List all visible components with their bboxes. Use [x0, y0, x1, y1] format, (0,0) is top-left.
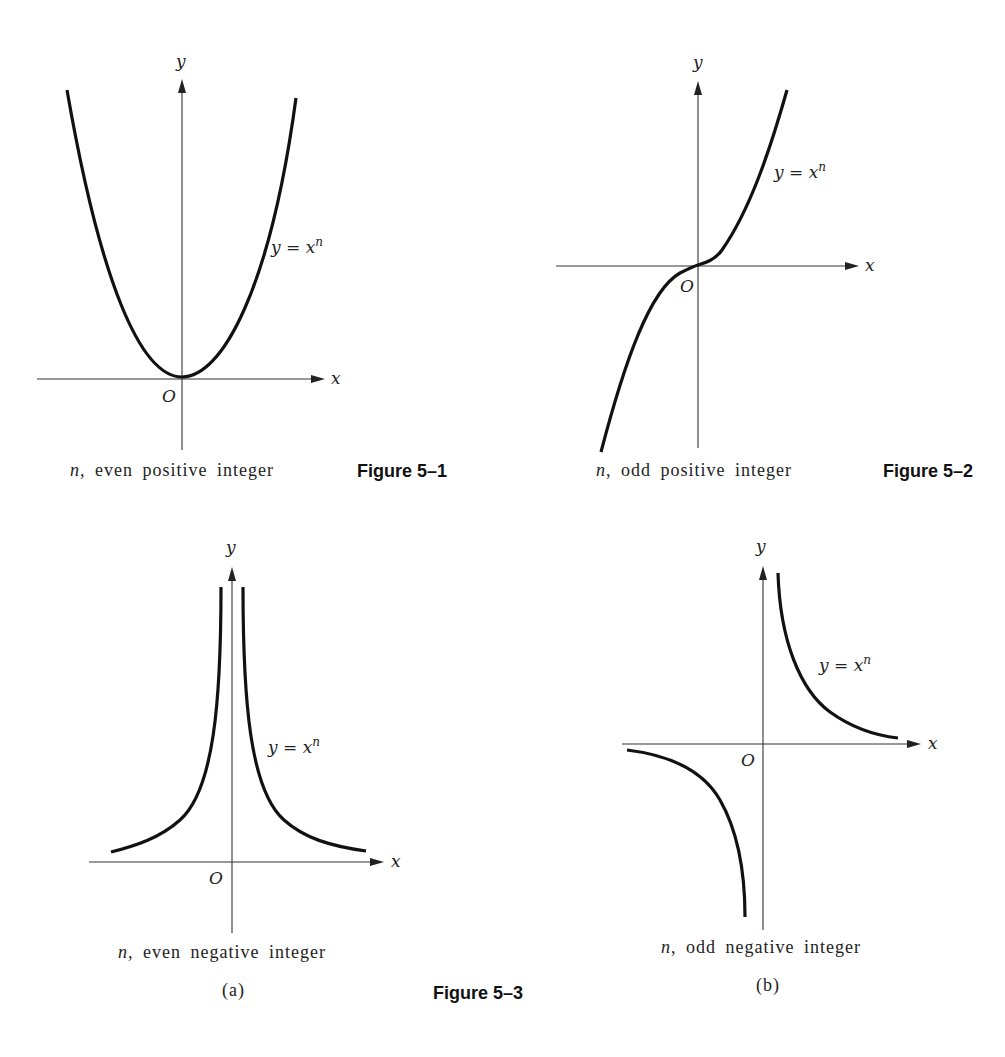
origin-label: O — [162, 386, 176, 406]
curve-label: y = xn — [818, 653, 871, 675]
curve-odd-positive — [601, 90, 787, 452]
x-axis-label: x — [865, 255, 875, 275]
curve-even-negative-left — [111, 587, 221, 852]
x-axis-label: x — [928, 733, 938, 753]
figure-caption: n, odd positive integer — [596, 460, 792, 480]
y-axis-arrow-icon — [694, 81, 702, 95]
curve-label: y = xn — [270, 235, 323, 257]
x-axis-label: x — [391, 851, 401, 871]
y-axis-label: y — [225, 537, 236, 557]
curve-odd-negative-lower — [627, 750, 745, 917]
y-axis-arrow-icon — [228, 567, 236, 581]
figure-5-2: x y O y = xn n, odd positive integer Fig… — [556, 52, 973, 481]
origin-label: O — [741, 750, 755, 770]
figure-5-3b: x y O y = xn n, odd negative integer (b) — [622, 536, 938, 996]
x-axis-arrow-icon — [311, 375, 325, 383]
x-axis-label: x — [331, 368, 341, 388]
subfigure-label: (a) — [222, 980, 245, 1001]
y-axis-label: y — [692, 52, 703, 72]
figure-number: Figure 5–2 — [883, 461, 973, 481]
figure-5-1: x y O y = xn n, even positive integer Fi… — [37, 51, 447, 481]
figure-caption: n, even positive integer — [70, 460, 274, 480]
figure-caption: n, even negative integer — [118, 942, 326, 962]
x-axis-arrow-icon — [907, 740, 921, 748]
figure-number: Figure 5–1 — [357, 461, 447, 481]
origin-label: O — [209, 868, 223, 888]
figures-canvas: x y O y = xn n, even positive integer Fi… — [0, 0, 1005, 1057]
y-axis-label: y — [175, 51, 186, 71]
figure-5-3a: x y O y = xn n, even negative integer (a… — [89, 537, 401, 1001]
figure-caption: n, odd negative integer — [661, 937, 861, 957]
y-axis-label: y — [755, 536, 766, 556]
y-axis-arrow-icon — [178, 79, 186, 93]
y-axis-arrow-icon — [759, 566, 767, 580]
curve-label: y = xn — [773, 160, 826, 182]
figure-number-5-3: Figure 5–3 — [433, 983, 523, 1003]
origin-label: O — [680, 276, 694, 296]
x-axis-arrow-icon — [845, 262, 859, 270]
curve-even-negative-right — [243, 587, 366, 851]
subfigure-label: (b) — [756, 975, 780, 996]
curve-label: y = xn — [267, 735, 320, 757]
x-axis-arrow-icon — [370, 858, 384, 866]
